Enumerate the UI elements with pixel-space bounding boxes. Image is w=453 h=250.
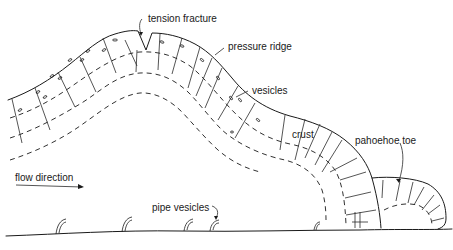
label-pressure-ridge: pressure ridge bbox=[228, 42, 292, 52]
label-pahoehoe-toe: pahoehoe toe bbox=[355, 136, 416, 146]
flow-base-line bbox=[6, 229, 452, 236]
lava-flow-diagram: tension fracture pressure ridge vesicles… bbox=[0, 0, 453, 250]
label-crust: crust bbox=[292, 130, 314, 140]
flow-direction-arrowhead bbox=[78, 184, 84, 189]
pressure-ridge-leader bbox=[215, 48, 224, 55]
label-vesicles: vesicles bbox=[252, 86, 288, 96]
flow-direction-arrow bbox=[16, 185, 82, 187]
diagram-drawing bbox=[0, 0, 453, 250]
toe-inner-boundary bbox=[384, 204, 432, 226]
label-pipe-vesicles: pipe vesicles bbox=[152, 203, 209, 213]
tension-fracture-leader bbox=[140, 19, 142, 34]
label-flow-direction: flow direction bbox=[15, 173, 73, 183]
pahoehoe-toe-leader bbox=[399, 143, 403, 181]
core-boundary bbox=[10, 93, 260, 172]
vesicles-leader bbox=[236, 91, 248, 97]
pahoehoe-toe-arrowhead bbox=[396, 179, 401, 183]
pipe-vesicles-arrowhead bbox=[214, 216, 218, 220]
cooling-joints bbox=[12, 34, 444, 228]
label-tension-fracture: tension fracture bbox=[148, 14, 217, 24]
outer-crust-surface bbox=[8, 31, 381, 228]
